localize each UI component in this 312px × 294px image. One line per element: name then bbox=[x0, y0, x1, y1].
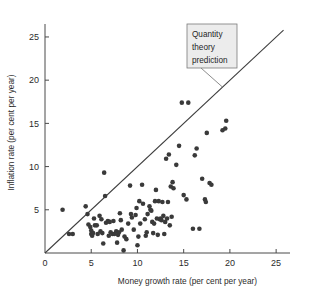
data-point bbox=[121, 248, 126, 253]
callout-text-3: prediction bbox=[192, 56, 228, 65]
axis-titles: Money growth rate (per cent per year)Inf… bbox=[6, 74, 257, 286]
data-point bbox=[119, 227, 124, 232]
data-point bbox=[167, 152, 172, 157]
data-point bbox=[181, 193, 186, 198]
data-point bbox=[107, 220, 112, 225]
data-point bbox=[83, 204, 88, 209]
data-point bbox=[164, 157, 169, 162]
data-point bbox=[149, 208, 154, 213]
data-point bbox=[174, 163, 179, 168]
data-point bbox=[134, 206, 139, 211]
x-tick-label: 15 bbox=[179, 258, 189, 268]
data-point bbox=[70, 232, 75, 237]
data-point bbox=[143, 217, 148, 222]
data-point bbox=[60, 207, 65, 212]
data-point bbox=[103, 194, 108, 199]
y-tick-label: 15 bbox=[29, 119, 39, 129]
quantity-theory-callout: Quantitytheoryprediction bbox=[187, 24, 237, 87]
data-point bbox=[170, 180, 175, 185]
data-point bbox=[136, 234, 141, 239]
data-point bbox=[138, 221, 143, 226]
data-point bbox=[177, 144, 182, 149]
quantity-theory-line bbox=[45, 30, 284, 253]
data-point bbox=[192, 153, 197, 158]
data-point bbox=[186, 100, 191, 105]
data-point bbox=[126, 221, 131, 226]
data-point bbox=[137, 199, 142, 204]
data-point bbox=[91, 231, 96, 236]
data-point bbox=[180, 100, 185, 105]
data-point bbox=[140, 182, 145, 187]
data-point bbox=[95, 232, 100, 237]
x-tick-label: 5 bbox=[89, 258, 94, 268]
x-tick-label: 10 bbox=[132, 258, 142, 268]
data-point bbox=[166, 200, 171, 205]
data-point bbox=[119, 218, 124, 223]
data-point bbox=[204, 200, 209, 205]
data-point bbox=[133, 213, 138, 218]
data-point bbox=[184, 197, 189, 202]
data-point bbox=[209, 182, 214, 187]
data-point bbox=[155, 233, 160, 238]
data-point bbox=[85, 212, 90, 217]
y-tick-label: 5 bbox=[34, 205, 39, 215]
data-point bbox=[194, 146, 199, 151]
data-point bbox=[154, 188, 159, 193]
chart-canvas: 0510152025510152025 Quantitytheorypredic… bbox=[0, 0, 312, 294]
data-point bbox=[152, 221, 157, 226]
data-point bbox=[141, 201, 146, 206]
data-point bbox=[171, 186, 176, 191]
data-point bbox=[168, 223, 173, 228]
data-point bbox=[131, 227, 136, 232]
data-point bbox=[144, 230, 149, 235]
y-tick-label: 10 bbox=[29, 162, 39, 172]
y-tick-label: 25 bbox=[29, 32, 39, 42]
data-point bbox=[145, 212, 150, 217]
scatter-chart-figure: 0510152025510152025 Quantitytheorypredic… bbox=[0, 0, 312, 294]
data-point bbox=[156, 199, 161, 204]
data-point bbox=[169, 214, 174, 219]
data-point bbox=[124, 237, 129, 242]
y-axis-title: Inflation rate (per cent per year) bbox=[6, 74, 16, 190]
data-point bbox=[115, 240, 120, 245]
data-point bbox=[162, 232, 167, 237]
data-point bbox=[94, 223, 99, 228]
data-point bbox=[101, 241, 106, 246]
x-axis-title: Money growth rate (per cent per year) bbox=[118, 276, 258, 286]
x-tick-label: 0 bbox=[42, 258, 47, 268]
data-point bbox=[197, 227, 202, 232]
data-point bbox=[92, 216, 97, 221]
callout-leader-line bbox=[201, 68, 223, 87]
data-point bbox=[128, 183, 133, 188]
x-tick-label: 20 bbox=[225, 258, 235, 268]
data-point bbox=[224, 118, 229, 123]
callout-text-1: Quantity bbox=[192, 30, 223, 39]
callout-text-2: theory bbox=[192, 43, 216, 52]
data-point bbox=[223, 126, 228, 131]
data-point bbox=[118, 211, 123, 216]
data-point bbox=[161, 214, 166, 219]
data-points bbox=[60, 100, 228, 252]
data-point bbox=[102, 170, 107, 175]
data-point bbox=[191, 227, 196, 232]
y-tick-label: 20 bbox=[29, 75, 39, 85]
data-point bbox=[204, 131, 209, 136]
data-point bbox=[99, 217, 104, 222]
data-point bbox=[165, 216, 170, 221]
reference-line bbox=[45, 30, 284, 253]
data-point bbox=[151, 231, 156, 236]
x-tick-label: 25 bbox=[271, 258, 281, 268]
data-point bbox=[135, 243, 140, 248]
data-point bbox=[200, 176, 205, 181]
